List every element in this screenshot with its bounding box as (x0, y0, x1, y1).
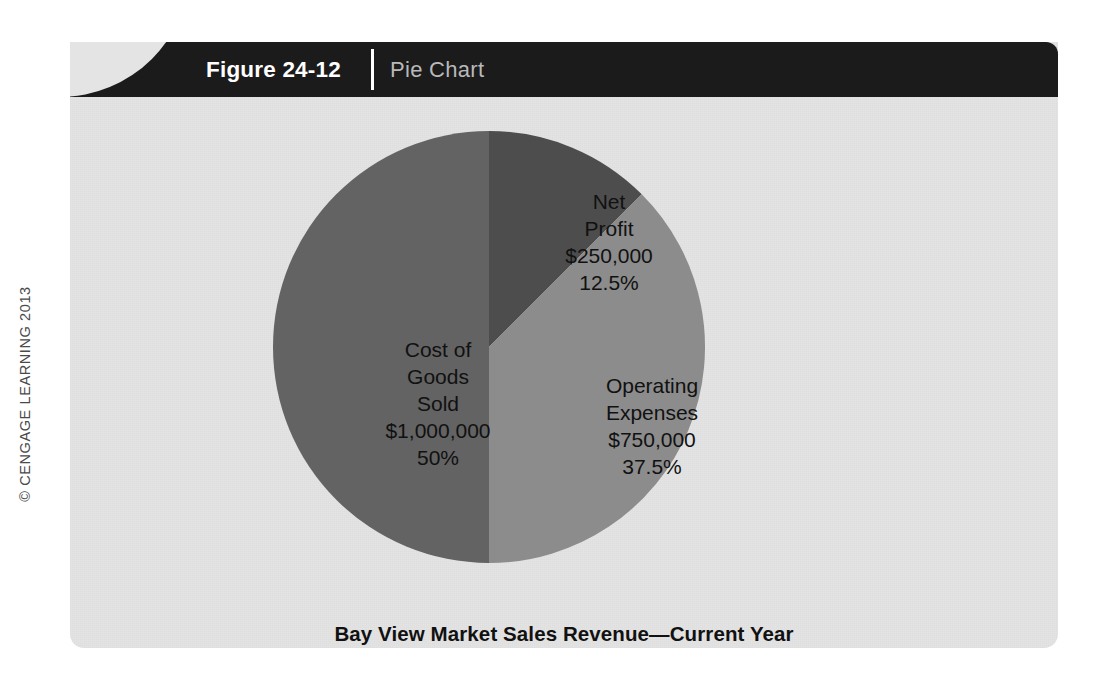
header-divider (371, 49, 374, 90)
pie-chart: Net Profit $250,000 12.5% Operating Expe… (70, 97, 1058, 648)
figure-number-label: Figure 24-12 (206, 42, 341, 97)
copyright-credit: © CENGAGE LEARNING 2013 (8, 386, 42, 646)
pie-slice-cost-of-goods-sold (273, 131, 489, 563)
pie-chart-svg (273, 131, 705, 563)
figure-panel: Figure 24-12 Pie Chart Net Profit $250,0… (70, 42, 1058, 648)
copyright-text: © CENGAGE LEARNING 2013 (17, 286, 33, 501)
figure-type-label: Pie Chart (390, 42, 484, 97)
header-corner-sweep (70, 42, 190, 97)
chart-title: Bay View Market Sales Revenue—Current Ye… (70, 622, 1058, 646)
